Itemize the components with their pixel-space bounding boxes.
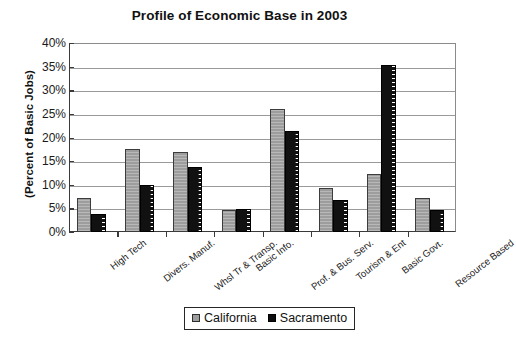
legend-swatch-icon (268, 314, 276, 322)
legend-item[interactable]: Sacramento (268, 311, 347, 325)
bar-sacramento (285, 131, 300, 232)
bar-california (222, 210, 237, 232)
bar-group (214, 43, 262, 232)
x-axis-label: Basic Govt. (400, 237, 445, 276)
bar-group (69, 43, 117, 232)
bar-california (367, 174, 382, 232)
bar-group (408, 43, 456, 232)
bar-sacramento (430, 210, 445, 232)
bar-sacramento (236, 209, 251, 232)
bar-california (270, 109, 285, 232)
bar-group (359, 43, 407, 232)
x-axis-label: Resource Based (453, 237, 516, 289)
bar-sacramento (140, 185, 155, 232)
legend-item[interactable]: California (192, 311, 257, 325)
chart-title: Profile of Economic Base in 2003 (0, 8, 479, 23)
bar-sacramento (188, 167, 203, 232)
legend-swatch-icon (192, 314, 200, 322)
bar-group (117, 43, 165, 232)
bar-california (77, 198, 92, 232)
bar-group (263, 43, 311, 232)
chart-legend: CaliforniaSacramento (184, 307, 355, 330)
bar-group (166, 43, 214, 232)
x-axis-category-labels: High TechDivers. Manuf.Whsl Tr & Transp.… (0, 232, 479, 312)
bar-california (415, 198, 430, 232)
legend-label: California (204, 311, 257, 325)
bar-sacramento (91, 214, 106, 232)
bars-layer (69, 43, 456, 232)
bar-california (125, 149, 140, 232)
bar-sacramento (333, 200, 348, 232)
legend-label: Sacramento (280, 311, 347, 325)
bar-california (319, 188, 334, 232)
bar-sacramento (381, 65, 396, 232)
bar-group (311, 43, 359, 232)
bar-california (173, 152, 188, 232)
x-axis-label: High Tech (108, 237, 148, 272)
x-axis-label: Divers. Manuf. (161, 237, 217, 284)
